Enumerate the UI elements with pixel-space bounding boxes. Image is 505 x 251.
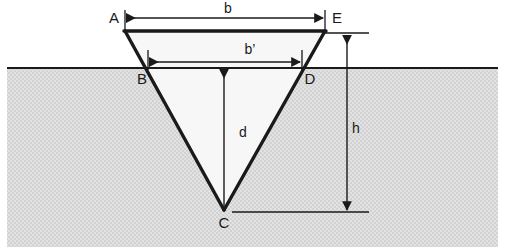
vertex-label-b: B — [137, 70, 147, 87]
vertex-label-c: C — [219, 214, 230, 231]
excavation-diagram-figure: A B C D E b b’ d h — [0, 0, 505, 251]
vertex-label-d: D — [305, 70, 316, 87]
vertex-label-e: E — [332, 9, 342, 26]
dimension-label-h: h — [352, 120, 360, 136]
dimension-label-b: b — [224, 0, 232, 16]
diagram-canvas: A B C D E b b’ d h — [0, 0, 505, 251]
dimension-label-b-prime: b’ — [245, 41, 256, 57]
dimension-label-d: d — [239, 124, 247, 140]
vertex-label-a: A — [109, 9, 119, 26]
